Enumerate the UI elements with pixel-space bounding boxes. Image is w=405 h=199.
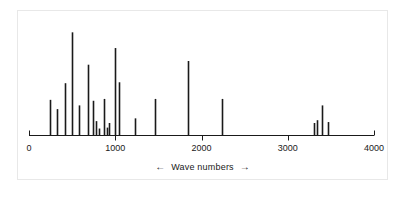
spectrum-sticks bbox=[51, 32, 329, 135]
arrow-left-icon: ← bbox=[155, 162, 165, 172]
axis-caption-label: Wave numbers bbox=[165, 162, 240, 172]
arrow-right-icon: → bbox=[240, 162, 250, 172]
x-axis-tick-label: 1000 bbox=[95, 144, 135, 153]
x-axis-tick-label: 3000 bbox=[268, 144, 308, 153]
axis-caption: ←Wave numbers→ bbox=[0, 161, 405, 172]
x-axis-tick-label: 2000 bbox=[182, 144, 222, 153]
x-axis-tick-label: 4000 bbox=[354, 144, 394, 153]
x-axis-tick-label: 0 bbox=[9, 144, 49, 153]
spectrum-figure: 01000200030004000 ←Wave numbers→ bbox=[0, 0, 405, 199]
